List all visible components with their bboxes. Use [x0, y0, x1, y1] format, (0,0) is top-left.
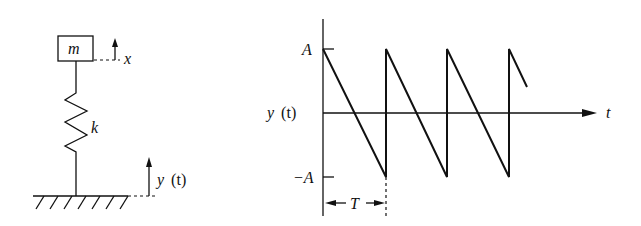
t-axis-label: t — [606, 104, 611, 121]
sawtooth-graph: t y (t) A −A T — [265, 19, 611, 218]
upper-tick-label: A — [301, 41, 312, 58]
period-label: T — [350, 195, 360, 212]
period-arrow-head-right — [374, 200, 385, 206]
x-arrow-head — [112, 38, 118, 47]
spring — [65, 61, 87, 196]
x-label: x — [123, 50, 131, 67]
base-label: y (t) — [155, 171, 186, 189]
diagram: m x k y (t) t — [0, 0, 641, 226]
t-axis-arrow-head — [582, 109, 597, 117]
y-axis-label: y (t) — [265, 104, 296, 122]
lower-tick-label: −A — [293, 169, 314, 186]
period-arrow-head-left — [325, 200, 336, 206]
base-arrow-head — [146, 157, 152, 167]
mass-label: m — [68, 40, 80, 57]
ground-hatching — [36, 196, 128, 209]
spring-mass-system: m x k y (t) — [33, 36, 186, 209]
spring-label: k — [91, 119, 99, 136]
